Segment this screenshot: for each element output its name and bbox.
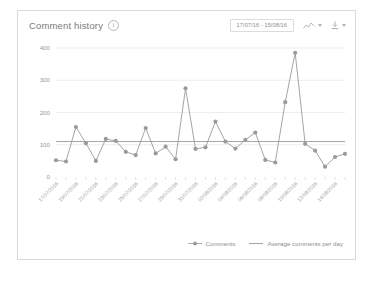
data-point-marker[interactable] — [293, 51, 297, 55]
data-point-marker[interactable] — [94, 159, 98, 163]
download-icon — [331, 21, 339, 30]
y-axis-tick-label: 0 — [47, 173, 51, 180]
line-chart-icon — [303, 22, 315, 30]
data-point-marker[interactable] — [124, 150, 128, 154]
x-axis-tick-label: 27/07/2016 — [137, 180, 159, 202]
page-title: Comment history — [29, 20, 103, 31]
y-axis-tick-label: 100 — [40, 141, 51, 148]
data-point-marker[interactable] — [313, 148, 317, 152]
data-point-marker[interactable] — [343, 152, 347, 156]
legend-marker-point-icon — [188, 240, 202, 247]
data-point-marker[interactable] — [193, 147, 197, 151]
data-point-marker[interactable] — [54, 158, 58, 162]
data-point-marker[interactable] — [104, 137, 108, 141]
y-axis-tick-label: 300 — [40, 76, 51, 83]
screenshot-root: Comment history i 17/07/16 - 15/08/16 — [0, 0, 373, 281]
data-point-marker[interactable] — [243, 138, 247, 142]
data-point-marker[interactable] — [64, 159, 68, 163]
data-point-marker[interactable] — [323, 165, 327, 169]
y-axis-tick-label: 400 — [40, 44, 51, 51]
chart-legend: Comments Average comments per day — [188, 240, 343, 247]
data-point-marker[interactable] — [164, 145, 168, 149]
data-point-marker[interactable] — [303, 142, 307, 146]
legend-label: Comments — [206, 240, 236, 247]
data-point-marker[interactable] — [84, 141, 88, 145]
x-axis-tick-label: 06/08/2016 — [236, 180, 258, 202]
chevron-down-icon — [318, 24, 322, 27]
x-axis-tick-label: 29/07/2016 — [157, 180, 179, 202]
x-axis-tick-label: 10/08/2016 — [276, 180, 298, 202]
x-axis-tick-label: 23/07/2016 — [97, 180, 119, 202]
data-point-marker[interactable] — [134, 153, 138, 157]
data-point-marker[interactable] — [233, 147, 237, 151]
data-point-marker[interactable] — [173, 157, 177, 161]
data-point-marker[interactable] — [273, 160, 277, 164]
date-range-selector[interactable]: 17/07/16 - 15/08/16 — [230, 19, 294, 32]
data-point-marker[interactable] — [223, 139, 227, 143]
data-point-marker[interactable] — [183, 86, 187, 90]
data-point-marker[interactable] — [154, 151, 158, 155]
legend-marker-line-icon — [249, 240, 263, 247]
data-point-marker[interactable] — [283, 100, 287, 104]
chart-type-dropdown[interactable] — [303, 22, 322, 30]
data-point-marker[interactable] — [253, 130, 257, 134]
data-point-marker[interactable] — [333, 155, 337, 159]
x-axis-tick-label: 19/07/2016 — [57, 180, 79, 202]
chart-area: 010020030040017/07/201619/07/201621/07/2… — [18, 40, 355, 259]
legend-item-average[interactable]: Average comments per day — [249, 240, 343, 247]
y-axis-tick-label: 200 — [40, 109, 51, 116]
comment-history-card: Comment history i 17/07/16 - 15/08/16 — [17, 10, 356, 260]
x-axis-tick-label: 14/08/2016 — [316, 180, 338, 202]
card-header: Comment history i 17/07/16 - 15/08/16 — [18, 11, 355, 40]
legend-label: Average comments per day — [267, 240, 343, 247]
x-axis-tick-label: 08/08/2016 — [256, 180, 278, 202]
data-point-marker[interactable] — [263, 158, 267, 162]
x-axis-tick-label: 04/08/2016 — [216, 180, 238, 202]
data-point-marker[interactable] — [114, 139, 118, 143]
data-point-marker[interactable] — [213, 119, 217, 123]
data-point-marker[interactable] — [203, 145, 207, 149]
x-axis-tick-label: 21/07/2016 — [77, 180, 99, 202]
data-point-marker[interactable] — [144, 126, 148, 130]
comment-history-chart[interactable]: 010020030040017/07/201619/07/201621/07/2… — [18, 40, 355, 259]
comments-series-line — [56, 53, 345, 167]
data-point-marker[interactable] — [74, 125, 78, 129]
chevron-down-icon — [342, 24, 346, 27]
download-dropdown[interactable] — [331, 21, 346, 30]
info-icon[interactable]: i — [108, 20, 119, 31]
x-axis-tick-label: 25/07/2016 — [117, 180, 139, 202]
x-axis-tick-label: 17/07/2016 — [37, 180, 59, 202]
legend-item-comments[interactable]: Comments — [188, 240, 236, 247]
x-axis-tick-label: 31/07/2016 — [176, 180, 198, 202]
x-axis-tick-label: 02/08/2016 — [196, 180, 218, 202]
x-axis-tick-label: 12/08/2016 — [296, 180, 318, 202]
